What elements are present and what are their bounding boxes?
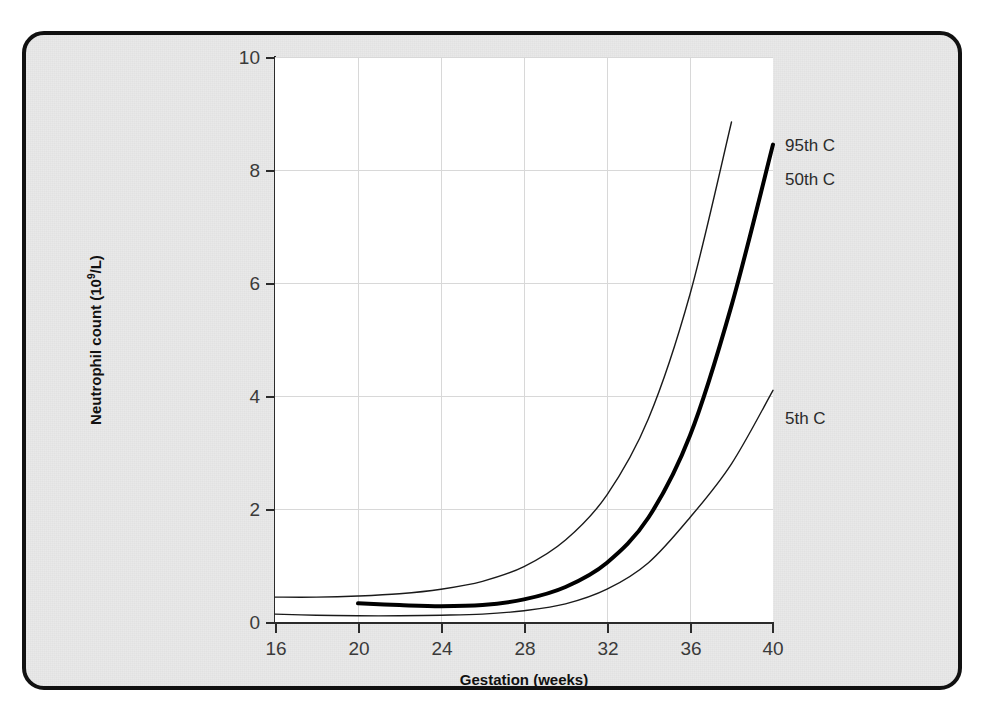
y-axis-title-base: Neutrophil count (10 bbox=[87, 279, 104, 425]
y-tick-label-2: 2 bbox=[232, 499, 260, 521]
x-tick-mark-24 bbox=[441, 624, 443, 633]
x-tick-label-36: 36 bbox=[680, 638, 701, 660]
y-tick-mark-4 bbox=[266, 396, 275, 398]
y-tick-mark-10 bbox=[266, 57, 275, 59]
series-label-95th-c: 95th C bbox=[785, 136, 835, 156]
y-axis-title-exponent: 9 bbox=[86, 273, 97, 279]
x-tick-mark-32 bbox=[607, 624, 609, 633]
y-tick-mark-8 bbox=[266, 170, 275, 172]
x-tick-label-24: 24 bbox=[431, 638, 452, 660]
x-tick-label-16: 16 bbox=[265, 638, 286, 660]
x-tick-mark-20 bbox=[358, 624, 360, 633]
y-tick-mark-2 bbox=[266, 509, 275, 511]
y-tick-label-4: 4 bbox=[232, 386, 260, 408]
x-tick-mark-36 bbox=[690, 624, 692, 633]
figure-panel: Neutrophil count (109/L) 0 2 4 6 8 10 bbox=[22, 31, 962, 690]
x-tick-label-32: 32 bbox=[597, 638, 618, 660]
y-tick-mark-0 bbox=[266, 622, 275, 624]
y-tick-mark-6 bbox=[266, 283, 275, 285]
x-tick-mark-16 bbox=[275, 624, 277, 633]
x-tick-mark-28 bbox=[524, 624, 526, 633]
curve-5th-centile bbox=[275, 390, 773, 616]
curve-95th-centile bbox=[275, 122, 732, 597]
y-axis-title-tail: /L) bbox=[87, 255, 104, 273]
x-tick-label-40: 40 bbox=[762, 638, 783, 660]
x-tick-label-28: 28 bbox=[514, 638, 535, 660]
plot-area bbox=[275, 57, 773, 622]
series-label-5th-c: 5th C bbox=[785, 409, 826, 429]
x-tick-mark-40 bbox=[772, 624, 774, 633]
y-axis-title: Neutrophil count (109/L) bbox=[86, 175, 104, 505]
percentile-curves bbox=[275, 57, 773, 622]
x-tick-label-20: 20 bbox=[348, 638, 369, 660]
series-label-50th-c: 50th C bbox=[785, 170, 835, 190]
cutoff-text-strip bbox=[0, 0, 987, 12]
x-axis-title: Gestation (weeks) bbox=[275, 671, 773, 688]
y-tick-label-0: 0 bbox=[232, 612, 260, 634]
y-tick-label-6: 6 bbox=[232, 273, 260, 295]
y-tick-label-10: 10 bbox=[232, 47, 260, 69]
y-tick-label-8: 8 bbox=[232, 160, 260, 182]
